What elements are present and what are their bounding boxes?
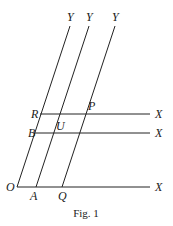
- label-x2: X: [154, 126, 163, 140]
- label-y1: Y: [67, 10, 75, 24]
- label-x1: X: [154, 107, 163, 121]
- label-x3: X: [154, 180, 163, 194]
- figure-diagram: Y Y Y X X X R B U P O A Q Fig. 1: [0, 0, 173, 226]
- figure-caption: Fig. 1: [73, 207, 99, 219]
- label-y3: Y: [112, 10, 120, 24]
- label-q: Q: [58, 189, 67, 203]
- label-b: B: [28, 126, 36, 140]
- label-r: R: [30, 107, 39, 121]
- label-y2: Y: [86, 10, 94, 24]
- label-a: A: [29, 189, 38, 203]
- label-o: O: [6, 180, 15, 194]
- label-p: P: [87, 99, 96, 113]
- label-u: U: [56, 119, 66, 133]
